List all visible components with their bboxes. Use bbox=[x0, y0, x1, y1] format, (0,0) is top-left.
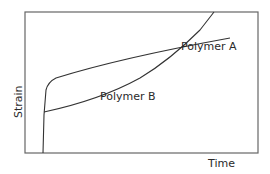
plot-frame bbox=[25, 12, 258, 153]
polymer-a-label: Polymer A bbox=[181, 40, 237, 53]
polymer-b-label: Polymer B bbox=[100, 90, 156, 103]
creep-diagram bbox=[0, 0, 270, 174]
y-axis-label: Strain bbox=[12, 85, 25, 118]
x-axis-label: Time bbox=[208, 157, 235, 170]
